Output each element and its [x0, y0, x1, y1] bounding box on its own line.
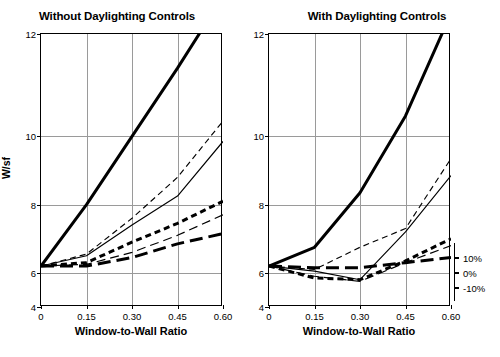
chart-title-left: Without Daylighting Controls	[0, 10, 242, 22]
xaxis-title-left: Window-to-Wall Ratio	[75, 325, 188, 337]
xtick-label-0: 0	[38, 311, 43, 322]
series-thick-long-dash	[269, 258, 451, 268]
xtick-label-015: 0.15	[77, 311, 96, 322]
plot-area-left: 4 6 8 10 12 0 0.15 0.30 0.45 0.60 Window…	[40, 33, 222, 306]
xtick-mark-060	[223, 305, 224, 309]
legend-tick-icon	[454, 287, 459, 288]
ytick-label-12: 12	[25, 29, 36, 40]
legend-item-10pct: 10%	[454, 252, 482, 264]
figure-canvas: Without Daylighting Controls 4 6 8 10 12…	[0, 0, 500, 357]
legend-label-10pct: 10%	[463, 253, 482, 264]
xtick-label-030: 0.30	[351, 311, 370, 322]
xtick-label-045: 0.45	[396, 311, 415, 322]
ytick-label-8: 8	[31, 199, 36, 210]
legend-tick-icon	[454, 257, 459, 258]
chart-panel-without-daylighting: Without Daylighting Controls 4 6 8 10 12…	[0, 0, 250, 357]
series-thin-solid	[41, 141, 223, 266]
ytick-label-12: 12	[253, 29, 264, 40]
legend-item-0pct: 0%	[454, 267, 477, 279]
legend-label-neg10pct: -10%	[463, 283, 485, 294]
ytick-label-6: 6	[259, 267, 264, 278]
xaxis-title-right: Window-to-Wall Ratio	[303, 325, 416, 337]
plot-area-right: 4 6 8 10 12 0 0.15 0.30 0.45 0.60 Window…	[268, 33, 450, 306]
data-lines-left	[41, 34, 223, 307]
data-lines-right	[269, 34, 451, 307]
ytick-label-10: 10	[253, 131, 264, 142]
ytick-label-10: 10	[25, 131, 36, 142]
xtick-label-045: 0.45	[168, 311, 187, 322]
chart-title-right: With Daylighting Controls	[252, 10, 500, 22]
chart-panel-with-daylighting: With Daylighting Controls 4 6 8 10 12 0 …	[250, 0, 500, 357]
xtick-mark-060	[451, 305, 452, 309]
legend-tick-icon	[454, 272, 459, 273]
ytick-label-4: 4	[259, 302, 264, 313]
series-thick-short-dash	[41, 201, 223, 266]
yaxis-title-left: W/sf	[0, 157, 12, 179]
ytick-label-4: 4	[31, 302, 36, 313]
series-thick-solid	[41, 0, 223, 266]
xtick-label-0: 0	[266, 311, 271, 322]
series-thick-long-dash	[41, 234, 223, 266]
ytick-label-8: 8	[259, 199, 264, 210]
series-thick-solid	[269, 14, 451, 267]
xtick-label-015: 0.15	[305, 311, 324, 322]
xtick-label-060: 0.60	[214, 311, 233, 322]
xtick-label-030: 0.30	[123, 311, 142, 322]
legend-right: 10% 0% -10%	[454, 243, 500, 301]
series-thin-dashed	[41, 121, 223, 266]
legend-item-neg10pct: -10%	[454, 282, 485, 294]
xtick-label-060: 0.60	[442, 311, 461, 322]
legend-label-0pct: 0%	[463, 268, 477, 279]
ytick-label-6: 6	[31, 267, 36, 278]
